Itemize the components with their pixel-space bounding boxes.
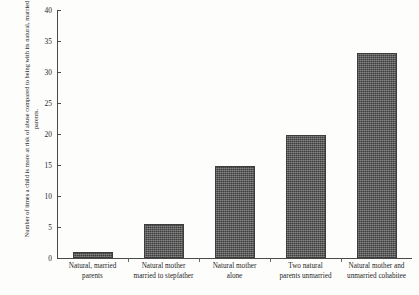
x-axis-label-line: alone <box>199 272 270 282</box>
bar <box>215 166 255 258</box>
x-axis-label-line: married to stepfather <box>128 272 199 282</box>
y-tick-label: 30 <box>45 68 52 77</box>
bar-chart: Number of times a child is more at risk … <box>0 0 419 295</box>
bar <box>286 135 326 258</box>
x-axis-label: Natural mothermarried to stepfather <box>128 262 199 281</box>
x-axis-label: Two naturalparents unmarried <box>270 262 341 281</box>
x-axis-label-line: unmarried cohabitee <box>341 272 412 282</box>
bar <box>73 252 113 258</box>
bar-series <box>57 10 412 258</box>
x-axis-label: Natural mother andunmarried cohabitee <box>341 262 412 281</box>
x-axis-label: Natural, marriedparents <box>57 262 128 281</box>
y-tick-label: 5 <box>48 223 52 232</box>
x-axis-label-line: parents <box>57 272 128 282</box>
y-tick-label: 15 <box>45 161 52 170</box>
x-axis-label-line: Two natural <box>270 262 341 272</box>
x-axis-line <box>57 258 412 259</box>
y-axis-title: Number of times a child is more at risk … <box>22 0 40 245</box>
y-tick-label: 25 <box>45 99 52 108</box>
x-axis-label-line: Natural mother and <box>341 262 412 272</box>
y-tick-0: 0 <box>57 258 61 259</box>
bar <box>357 53 397 258</box>
y-tick-label: 35 <box>45 37 52 46</box>
plot-area: 0510152025303540 <box>57 10 412 258</box>
y-axis-title-area: Number of times a child is more at risk … <box>0 0 36 262</box>
y-tick-mark <box>58 258 61 259</box>
bar <box>144 224 184 258</box>
x-axis-label-line: Natural mother <box>128 262 199 272</box>
y-tick-label: 20 <box>45 130 52 139</box>
x-axis-label-line: Natural mother <box>199 262 270 272</box>
x-axis-label: Natural motheralone <box>199 262 270 281</box>
y-tick-label: 0 <box>48 254 52 263</box>
x-axis-label-line: Natural, married <box>57 262 128 272</box>
x-axis-category-labels: Natural, marriedparentsNatural mothermar… <box>57 262 412 295</box>
x-axis-label-line: parents unmarried <box>270 272 341 282</box>
y-tick-label: 10 <box>45 192 52 201</box>
y-tick-label: 40 <box>45 6 52 15</box>
